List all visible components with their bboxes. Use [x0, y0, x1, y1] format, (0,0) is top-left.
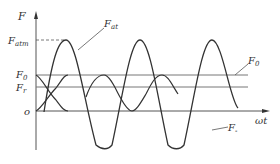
fr-label: Fr	[15, 82, 27, 95]
small-wave-mid	[86, 75, 146, 111]
f-atm-label: Fatm	[7, 35, 29, 48]
x-axis-label: ωt	[255, 115, 268, 126]
f0-label: F0	[15, 69, 28, 82]
force-diagram: F Fatm Fat F0 Fr o F0 ωt F-	[0, 0, 280, 164]
y-axis-label: F	[17, 10, 26, 23]
f0-right-label: F0	[247, 55, 260, 68]
f-at-wave	[44, 40, 238, 149]
f-minus-curve	[36, 80, 100, 145]
f-at-label: Fat	[103, 18, 118, 31]
small-wave-mid2	[146, 75, 178, 94]
y-axis-arrow-icon	[34, 11, 38, 19]
f-minus-label: F-	[227, 122, 238, 135]
f-at-leader	[78, 28, 104, 50]
f-minus-wave	[112, 71, 240, 145]
x-axis-arrow-icon	[262, 109, 270, 113]
origin-label: o	[24, 106, 30, 117]
f0-leader	[235, 64, 248, 75]
f-minus-leader	[212, 127, 228, 130]
